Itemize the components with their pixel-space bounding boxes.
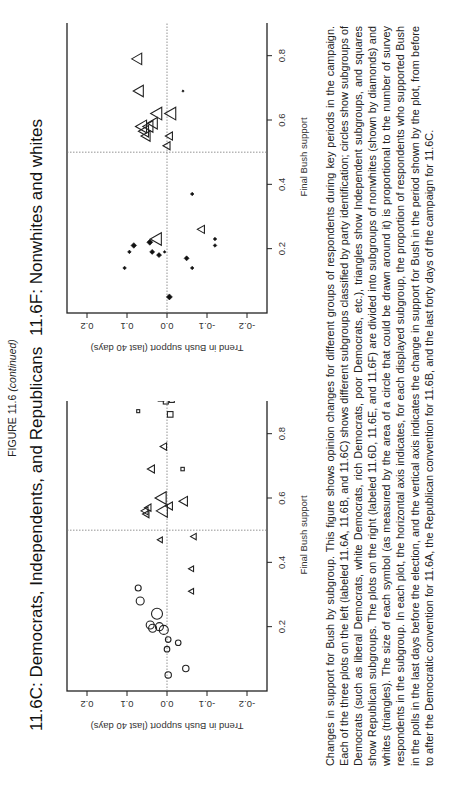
- y-tick-label: 0.0: [160, 321, 173, 332]
- x-tick-label: 0.4: [276, 178, 287, 191]
- x-axis-label: Final Bush support: [298, 495, 309, 575]
- data-point-diamond: [128, 250, 132, 254]
- rotated-figure-page: FIGURE 11.6 (continued) 11.6C: Democrats…: [0, 0, 453, 796]
- data-point-triangle: [163, 142, 170, 150]
- x-axis-label: Final Bush support: [298, 117, 309, 197]
- y-axis-label: Trend in Bush support (last 40 days): [91, 343, 244, 354]
- panel-title-left: 11.6C: Democrats, Independents, and Repu…: [27, 347, 47, 731]
- data-point-diamond: [157, 253, 162, 258]
- data-point-triangle: [157, 537, 162, 543]
- y-tick-label: 0.1: [120, 699, 133, 710]
- y-tick-label: 0.0: [160, 699, 173, 710]
- figure-label: FIGURE 11.6 (continued): [6, 0, 18, 796]
- y-axis-label: Trend in Bush support (last 40 days): [91, 721, 244, 732]
- data-point-circle: [165, 672, 171, 678]
- data-point-triangle: [197, 225, 204, 233]
- data-point-circle: [136, 597, 144, 605]
- data-point-triangle: [160, 443, 166, 450]
- data-point-triangle: [147, 465, 154, 473]
- figure-continued-note: (continued): [6, 339, 18, 392]
- data-point-diamond: [163, 250, 166, 253]
- y-tick-label: -0.2: [239, 699, 255, 710]
- y-tick-label: 0.1: [120, 321, 133, 332]
- figure-number: FIGURE 11.6: [6, 395, 18, 457]
- data-point-triangle: [189, 588, 194, 594]
- scatter-plot-right: -0.2-0.10.00.10.20.20.40.60.8Final Bush …: [55, 23, 320, 368]
- y-tick-label: 0.2: [80, 321, 93, 332]
- data-point-triangle: [191, 533, 197, 539]
- data-point-triangle: [133, 85, 143, 97]
- x-tick-label: 0.8: [276, 427, 287, 440]
- data-point-diamond: [190, 192, 194, 196]
- data-point-triangle: [189, 566, 194, 572]
- data-point-diamond: [150, 249, 155, 254]
- x-tick-label: 0.2: [276, 620, 287, 633]
- y-tick-label: -0.1: [199, 699, 215, 710]
- x-tick-label: 0.6: [276, 491, 287, 504]
- x-tick-label: 0.4: [276, 556, 287, 569]
- data-point-triangle: [179, 496, 187, 506]
- data-point-triangle: [165, 107, 176, 120]
- data-point-circle: [152, 608, 163, 619]
- x-tick-label: 0.8: [276, 49, 287, 62]
- data-point-circle: [175, 640, 181, 646]
- data-point-triangle: [132, 53, 142, 65]
- data-point-circle: [165, 637, 171, 643]
- data-point-diamond: [123, 266, 127, 270]
- y-tick-label: -0.1: [199, 321, 215, 332]
- data-point-square: [181, 467, 184, 470]
- data-point-triangle: [155, 492, 166, 505]
- figure-caption: Changes in support for Bush by subgroup.…: [323, 26, 436, 766]
- scatter-plot-left: -0.2-0.10.00.10.20.20.40.60.8Final Bush …: [55, 401, 320, 746]
- x-tick-label: 0.6: [276, 113, 287, 126]
- y-tick-label: 0.2: [80, 699, 93, 710]
- data-point-circle: [135, 585, 141, 591]
- data-point-triangle: [135, 120, 146, 133]
- data-point-diamond: [182, 90, 184, 92]
- data-point-diamond: [213, 244, 217, 248]
- data-point-diamond: [131, 243, 137, 249]
- data-point-diamond: [190, 266, 194, 270]
- data-point-diamond: [184, 256, 189, 261]
- x-tick-label: 0.2: [276, 242, 287, 255]
- data-point-square: [137, 410, 140, 413]
- panel-title-right: 11.6F: Nonwhites and whites: [27, 119, 47, 336]
- data-point-square: [167, 412, 173, 418]
- y-tick-label: -0.2: [239, 321, 255, 332]
- data-point-square: [169, 401, 174, 402]
- data-point-diamond: [213, 237, 217, 241]
- data-point-circle: [183, 665, 189, 671]
- data-point-triangle: [165, 132, 172, 140]
